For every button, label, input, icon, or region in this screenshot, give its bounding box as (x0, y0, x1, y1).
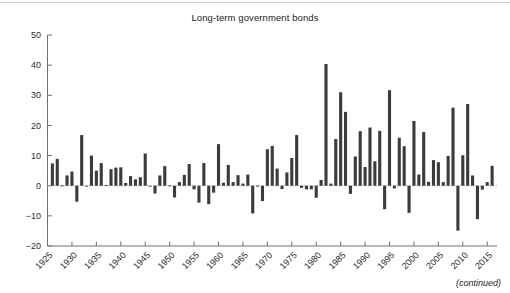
x-tick-label: 2015 (473, 250, 494, 271)
bar-1960 (217, 144, 220, 186)
bar-1970 (266, 149, 269, 185)
bar-2007 (447, 156, 450, 186)
bar-1955 (193, 186, 196, 190)
bar-2010 (461, 155, 464, 185)
bar-1979 (310, 186, 313, 190)
bar-1953 (183, 175, 186, 186)
bar-1974 (285, 172, 288, 185)
bar-1986 (344, 112, 347, 186)
bar-1957 (202, 163, 205, 186)
bar-1956 (197, 186, 200, 203)
x-tick-label: 1930 (58, 250, 79, 271)
bar-1999 (408, 186, 411, 213)
continued-note: (continued) (456, 278, 501, 288)
x-tick-label: 2005 (424, 250, 445, 271)
bar-1937 (105, 185, 108, 186)
bar-1943 (134, 179, 137, 185)
bar-1950 (168, 185, 171, 186)
bar-1959 (212, 186, 215, 193)
bar-2002 (422, 132, 425, 186)
bar-1928 (61, 185, 64, 186)
bar-1964 (237, 175, 240, 186)
bar-2008 (451, 108, 454, 186)
bar-1942 (129, 176, 132, 186)
x-tick-label: 1935 (82, 250, 103, 271)
x-tick-label: 1945 (131, 250, 152, 271)
bar-1996 (393, 186, 396, 189)
bar-1933 (85, 186, 88, 187)
y-tick-label: 0 (36, 181, 41, 191)
x-tick-label: 2000 (400, 250, 421, 271)
bar-1927 (56, 159, 59, 186)
x-tick-label: 1965 (229, 250, 250, 271)
figure-container: Long-term government bonds −20−100102030… (0, 0, 510, 293)
bar-1993 (378, 131, 381, 186)
bar-1988 (354, 156, 357, 185)
bar-1944 (139, 177, 142, 185)
bar-1972 (276, 169, 279, 186)
bar-1975 (290, 158, 293, 186)
bar-1934 (90, 156, 93, 186)
y-tick-label: −20 (26, 241, 41, 251)
bar-1948 (158, 175, 161, 185)
bar-2001 (417, 175, 420, 186)
bar-1981 (320, 180, 323, 186)
bar-1936 (100, 163, 103, 186)
bar-1939 (114, 168, 117, 186)
y-tick-label: 50 (31, 30, 41, 40)
bar-1941 (124, 183, 127, 186)
bar-2000 (412, 121, 415, 186)
x-tick-label: 1970 (253, 250, 274, 271)
bar-1980 (315, 186, 318, 198)
bar-1992 (373, 161, 376, 185)
bar-1958 (207, 186, 210, 204)
bar-1947 (153, 186, 156, 194)
bar-1961 (222, 183, 225, 186)
bar-1973 (280, 186, 283, 189)
bar-1938 (109, 169, 112, 186)
bar-1929 (65, 175, 68, 185)
x-tick-label: 1975 (278, 250, 299, 271)
x-tick-label: 1950 (155, 250, 176, 271)
bar-1989 (359, 131, 362, 186)
y-tick-label: 30 (31, 90, 41, 100)
bar-1965 (241, 184, 244, 186)
bar-1984 (334, 139, 337, 186)
y-tick-label: 20 (31, 121, 41, 131)
bar-1976 (295, 135, 298, 186)
bar-1932 (80, 135, 83, 186)
bar-2005 (437, 162, 440, 186)
bar-1951 (173, 186, 176, 198)
bar-2012 (471, 175, 474, 185)
bar-2011 (466, 104, 469, 186)
bar-2006 (442, 182, 445, 186)
bar-2015 (486, 182, 489, 186)
bar-1954 (188, 164, 191, 186)
bar-2013 (476, 186, 479, 219)
bar-1990 (364, 167, 367, 186)
x-tick-label: 1995 (375, 250, 396, 271)
bar-1949 (163, 166, 166, 186)
bar-2003 (427, 182, 430, 186)
bar-chart-plot: −20−100102030405019251930193519401945195… (0, 0, 510, 293)
bar-1971 (271, 146, 274, 186)
bar-1931 (75, 186, 78, 202)
bar-1962 (227, 165, 230, 186)
bar-2004 (432, 160, 435, 186)
bar-1982 (324, 64, 327, 186)
x-tick-label: 1980 (302, 250, 323, 271)
bar-1966 (246, 175, 249, 186)
bar-1946 (149, 186, 152, 187)
x-tick-label: 1955 (180, 250, 201, 271)
bar-1952 (178, 182, 181, 186)
x-tick-label: 1960 (204, 250, 225, 271)
bar-1935 (95, 171, 98, 186)
y-tick-label: −10 (26, 211, 41, 221)
bar-1967 (251, 186, 254, 214)
bar-1978 (305, 186, 308, 190)
bar-1968 (256, 186, 259, 187)
bar-2016 (491, 166, 494, 186)
bar-1998 (403, 146, 406, 185)
bar-1963 (232, 182, 235, 186)
bar-1997 (398, 138, 401, 186)
